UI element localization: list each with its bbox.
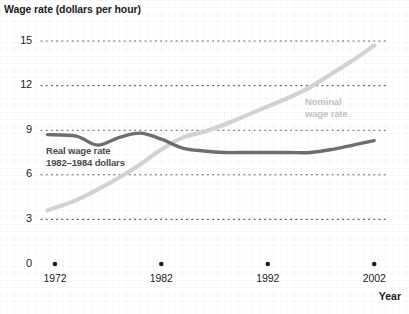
x-tick-label-1982: 1982	[135, 272, 187, 284]
y-tick-label-0: 0	[6, 257, 32, 269]
y-tick-label-12: 12	[6, 78, 32, 90]
x-axis-title: Year	[379, 290, 401, 302]
y-tick-label-9: 9	[6, 123, 32, 135]
x-tick-label-2002: 2002	[348, 272, 400, 284]
x-tick-label-1972: 1972	[29, 272, 81, 284]
wage-rate-chart-figure: Wage rate (dollars per hour) 15129630 19…	[0, 0, 409, 314]
nominal-wage-rate-annotation: Nominal wage rate	[305, 96, 347, 119]
nominal-annotation-line-2: wage rate	[305, 108, 347, 120]
nominal-annotation-line-1: Nominal	[305, 96, 347, 108]
x-tick-dot-1982	[159, 262, 164, 267]
x-tick-dot-1992	[265, 262, 270, 267]
x-tick-label-1992: 1992	[242, 272, 294, 284]
y-tick-label-6: 6	[6, 167, 32, 179]
real-annotation-line-2: 1982–1984 dollars	[46, 157, 125, 169]
real-annotation-line-1: Real wage rate	[46, 145, 125, 157]
x-tick-dot-2002	[372, 262, 377, 267]
nominal-wage-rate-line	[47, 45, 374, 210]
y-tick-label-15: 15	[6, 34, 32, 46]
x-tick-dot-1972	[53, 262, 58, 267]
y-tick-label-3: 3	[6, 212, 32, 224]
real-wage-rate-annotation: Real wage rate 1982–1984 dollars	[46, 145, 125, 168]
